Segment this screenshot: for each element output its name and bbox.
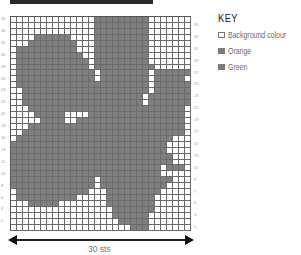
- row-number: 4: [1, 206, 3, 212]
- row-number: 7: [194, 189, 196, 195]
- key-item-background: Background colour: [218, 30, 299, 40]
- row-number: 20: [1, 111, 5, 117]
- key-item-label: Orange: [228, 46, 251, 56]
- row-number: 25: [194, 81, 198, 87]
- row-number: 16: [1, 135, 5, 141]
- green-swatch-icon: [218, 64, 225, 70]
- row-number: 5: [194, 200, 196, 206]
- key-item-green: Green: [218, 62, 299, 72]
- row-number: 1: [194, 224, 196, 230]
- chart-key: KEY Background colour Orange Green: [218, 12, 299, 72]
- row-number: 23: [194, 93, 198, 99]
- row-number: 9: [194, 177, 196, 183]
- row-number: 29: [194, 58, 198, 64]
- arrow-right-icon: [185, 235, 194, 245]
- row-number: 30: [1, 52, 5, 58]
- row-number: 8: [1, 183, 3, 189]
- row-number: 33: [194, 34, 198, 40]
- knitting-chart-grid: [10, 16, 191, 231]
- row-number: 11: [194, 165, 198, 171]
- row-number: 19: [194, 117, 198, 123]
- key-item-label: Green: [228, 62, 247, 72]
- row-number: 10: [1, 171, 5, 177]
- row-number: 24: [1, 87, 5, 93]
- row-number: 28: [1, 64, 5, 70]
- title-bar: [10, 0, 153, 4]
- row-number: 3: [194, 212, 196, 218]
- row-number: 17: [194, 129, 198, 135]
- stitch-count-label: 30 sts: [88, 244, 111, 254]
- row-number: 12: [1, 159, 5, 165]
- chart-cell: [185, 225, 191, 231]
- row-number: 34: [1, 28, 5, 34]
- row-number: 6: [1, 195, 3, 201]
- width-arrow: [10, 239, 192, 241]
- row-number: 13: [194, 153, 198, 159]
- row-number: 2: [1, 218, 3, 224]
- key-item-label: Background colour: [228, 30, 286, 40]
- row-number: 32: [1, 40, 5, 46]
- key-title: KEY: [218, 12, 287, 24]
- row-number: 22: [1, 99, 5, 105]
- row-number: 31: [194, 46, 198, 52]
- row-number: 27: [194, 70, 198, 76]
- background-swatch-icon: [218, 32, 225, 38]
- row-number: 35: [194, 22, 198, 28]
- row-number: 18: [1, 123, 5, 129]
- row-number: 15: [194, 141, 198, 147]
- arrow-left-icon: [8, 235, 17, 245]
- orange-swatch-icon: [218, 48, 225, 54]
- row-number: 26: [1, 76, 5, 82]
- row-number: 14: [1, 147, 5, 153]
- row-number: 36: [1, 16, 5, 22]
- key-item-orange: Orange: [218, 46, 299, 56]
- row-number: 21: [194, 105, 198, 111]
